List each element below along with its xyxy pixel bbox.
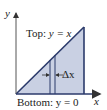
bottom-curve-label: Bottom: y = 0 [17,96,79,108]
delta-x-label: Δx [62,68,75,80]
x-axis-label: x [93,95,99,107]
y-axis-label: y [4,7,10,19]
bottom-label-expr: y = 0 [56,96,79,108]
top-curve-label: Top: y = x [26,27,72,39]
top-label-expr: y = x [48,27,72,39]
top-label-prefix: Top: [26,27,49,39]
region-diagram: Δx y x Top: y = x Bottom: y = 0 [0,0,107,110]
bottom-label-prefix: Bottom: [17,96,56,108]
